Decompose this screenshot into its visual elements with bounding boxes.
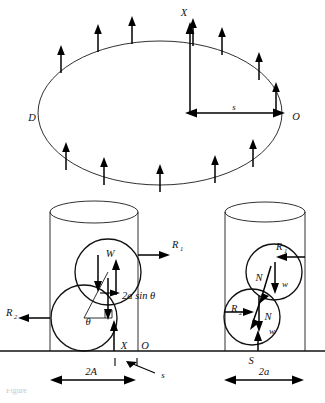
svg-text:R: R xyxy=(230,303,238,314)
left-offset-dimension xyxy=(115,358,155,373)
right-label-w-upper: w xyxy=(282,279,288,289)
right-label-r1: R 1 xyxy=(275,241,287,254)
right-label-n-upper: N xyxy=(254,272,263,283)
left-label-lever-arm: 2a sin θ xyxy=(122,290,155,301)
ellipse-plan-view xyxy=(38,16,285,192)
svg-text:R: R xyxy=(171,239,179,250)
force-arrow xyxy=(100,157,108,185)
right-cylinder-top-rim xyxy=(225,202,305,222)
left-reaction-bottom-vector xyxy=(18,314,50,322)
figure-root: X D O s W R 1 R 2 2a sin θ θ X O 2A s R … xyxy=(0,0,325,403)
plan-label-x: X xyxy=(180,7,188,18)
plan-force-arrows-bottom xyxy=(62,139,257,192)
force-arrow xyxy=(255,52,263,80)
right-label-s-support: S xyxy=(248,355,254,366)
svg-text:2: 2 xyxy=(14,313,18,320)
right-cylinder-elevation xyxy=(224,202,305,385)
svg-text:1: 1 xyxy=(180,245,183,252)
caption-strip: Figure xyxy=(0,389,325,403)
plan-label-d: D xyxy=(27,112,36,123)
right-upper-circle xyxy=(246,244,302,300)
right-reaction-top-vector xyxy=(276,253,305,261)
left-cylinder-top-rim xyxy=(50,201,138,223)
plan-force-arrows-top xyxy=(57,16,280,110)
right-weight-upper-vector xyxy=(271,262,279,294)
plan-label-s: s xyxy=(232,102,236,112)
right-label-w-lower: w xyxy=(269,326,275,336)
right-label-n-lower: N xyxy=(263,311,272,322)
svg-text:1: 1 xyxy=(284,247,287,254)
left-label-x: X xyxy=(120,340,128,351)
left-label-s: s xyxy=(161,370,165,380)
force-arrow xyxy=(211,155,219,183)
left-label-r2: R 2 xyxy=(5,307,18,320)
left-label-theta: θ xyxy=(85,316,90,327)
right-lower-circle xyxy=(224,289,280,345)
left-label-2A: 2A xyxy=(85,366,97,377)
right-label-2a: 2a xyxy=(259,366,270,377)
left-label-w: W xyxy=(106,248,116,259)
force-arrow xyxy=(249,139,257,167)
left-reaction-top-vector xyxy=(138,251,170,259)
right-label-r2: R 2 xyxy=(230,303,243,316)
left-label-r1: R 1 xyxy=(171,239,183,252)
caption-text: Figure xyxy=(6,389,27,395)
left-label-o: O xyxy=(141,340,149,351)
left-normal-up-vector xyxy=(112,259,120,295)
figure-canvas: X D O s W R 1 R 2 2a sin θ θ X O 2A s R … xyxy=(0,0,325,403)
force-arrow xyxy=(62,142,70,170)
force-arrow xyxy=(128,16,136,44)
force-arrow xyxy=(94,24,102,52)
force-arrow xyxy=(156,164,164,192)
plan-label-o: O xyxy=(292,111,300,122)
svg-text:R: R xyxy=(275,241,283,252)
right-support-vector xyxy=(254,330,262,351)
force-arrow xyxy=(218,27,226,55)
svg-text:R: R xyxy=(5,307,13,318)
